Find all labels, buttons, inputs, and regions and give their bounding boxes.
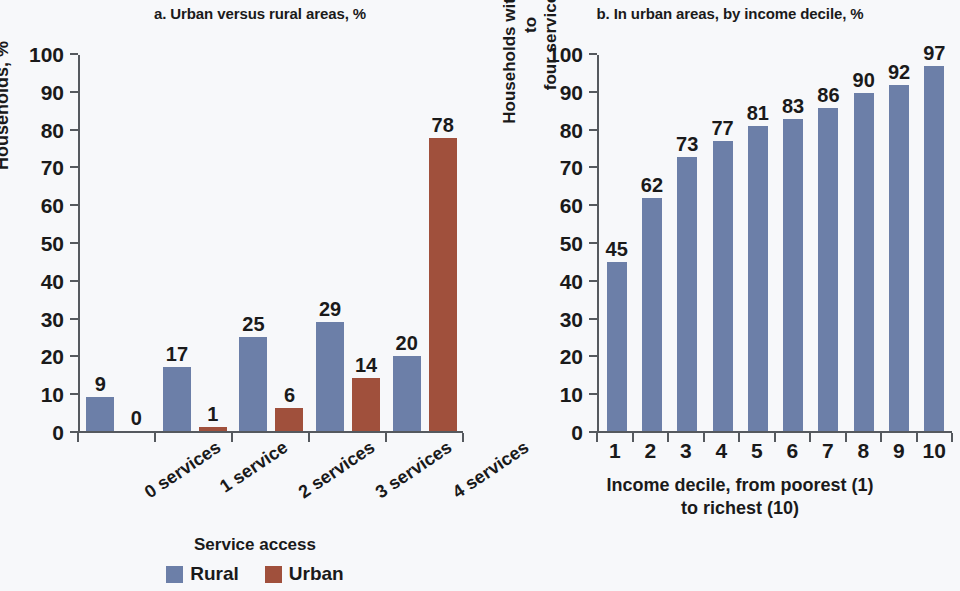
bar: 6 bbox=[275, 408, 303, 431]
panel-b-plot-area: 0102030405060708090100 45627377818386909… bbox=[597, 55, 952, 433]
legend-item: Rural bbox=[166, 563, 239, 585]
bar-group: 45 bbox=[599, 55, 634, 431]
bar-group: 81 bbox=[740, 55, 775, 431]
bar-wrap: 6 bbox=[275, 55, 303, 431]
bar-group: 90 bbox=[80, 55, 157, 431]
x-category-label: 4 bbox=[704, 440, 740, 470]
x-category-label: 0 services bbox=[141, 437, 225, 503]
y-tick: 20 bbox=[70, 355, 78, 357]
y-tick-label: 20 bbox=[560, 346, 583, 367]
bar-group: 83 bbox=[775, 55, 810, 431]
bar-group: 2078 bbox=[386, 55, 463, 431]
y-tick: 70 bbox=[589, 166, 597, 168]
bar-wrap: 77 bbox=[713, 55, 733, 431]
y-tick: 10 bbox=[589, 393, 597, 395]
y-tick: 40 bbox=[70, 280, 78, 282]
bar-group: 256 bbox=[233, 55, 310, 431]
panel-a: a. Urban versus rural areas, % Household… bbox=[0, 0, 480, 591]
bar: 25 bbox=[239, 337, 267, 431]
y-tick-label: 80 bbox=[41, 119, 64, 140]
bar: 81 bbox=[748, 126, 768, 431]
bar-wrap: 29 bbox=[316, 55, 344, 431]
panel-a-x-axis-title: Service access bbox=[0, 535, 480, 555]
bar: 83 bbox=[783, 119, 803, 431]
y-tick-label: 30 bbox=[41, 308, 64, 329]
bar: 29 bbox=[316, 322, 344, 431]
bar-value-label: 29 bbox=[319, 299, 341, 319]
bar-value-label: 1 bbox=[207, 404, 218, 424]
y-tick: 90 bbox=[70, 91, 78, 93]
bar-wrap: 45 bbox=[607, 55, 627, 431]
bar-wrap: 92 bbox=[889, 55, 909, 431]
bar-wrap: 0 bbox=[122, 55, 150, 431]
figure-container: a. Urban versus rural areas, % Household… bbox=[0, 0, 960, 591]
x-category-label: 7 bbox=[810, 440, 846, 470]
y-tick-label: 0 bbox=[52, 422, 64, 443]
bar: 77 bbox=[713, 141, 733, 431]
bar-wrap: 9 bbox=[86, 55, 114, 431]
legend-item: Urban bbox=[265, 563, 344, 585]
bar: 92 bbox=[889, 85, 909, 431]
bar-value-label: 45 bbox=[606, 239, 628, 259]
bar-wrap: 25 bbox=[239, 55, 267, 431]
bar-wrap: 14 bbox=[352, 55, 380, 431]
bar: 86 bbox=[818, 108, 838, 431]
bar-value-label: 17 bbox=[166, 344, 188, 364]
panel-a-y-axis-label: Households, % bbox=[0, 41, 13, 170]
y-tick-label: 20 bbox=[41, 346, 64, 367]
bar-value-label: 62 bbox=[641, 175, 663, 195]
y-tick: 80 bbox=[70, 129, 78, 131]
y-tick-label: 10 bbox=[41, 384, 64, 405]
bar: 90 bbox=[854, 93, 874, 431]
bar: 62 bbox=[642, 198, 662, 431]
y-tick-label: 80 bbox=[560, 119, 583, 140]
bar-value-label: 14 bbox=[355, 355, 377, 375]
panel-b-bar-groups: 45627377818386909297 bbox=[599, 55, 952, 431]
bar: 97 bbox=[924, 66, 944, 431]
y-tick: 50 bbox=[70, 242, 78, 244]
x-category-label: 3 bbox=[668, 440, 704, 470]
bar-group: 62 bbox=[634, 55, 669, 431]
panel-a-plot-area: 0102030405060708090100 9017125629142078 bbox=[78, 55, 463, 433]
y-tick-label: 60 bbox=[560, 195, 583, 216]
y-tick: 50 bbox=[589, 242, 597, 244]
bar: 78 bbox=[429, 138, 457, 431]
bar-group: 97 bbox=[917, 55, 952, 431]
panel-b-x-axis-title-line2: to richest (10) bbox=[520, 497, 960, 520]
y-tick-label: 70 bbox=[41, 157, 64, 178]
bar-wrap: 62 bbox=[642, 55, 662, 431]
bar-value-label: 81 bbox=[747, 103, 769, 123]
legend-label: Rural bbox=[190, 563, 239, 585]
bar-group: 73 bbox=[670, 55, 705, 431]
bar: 17 bbox=[163, 367, 191, 431]
y-tick: 30 bbox=[589, 318, 597, 320]
x-category-label: 10 bbox=[917, 440, 953, 470]
bar-value-label: 92 bbox=[888, 62, 910, 82]
y-tick: 60 bbox=[70, 204, 78, 206]
panel-a-title: a. Urban versus rural areas, % bbox=[0, 5, 480, 22]
panel-a-legend: RuralUrban bbox=[0, 563, 480, 585]
bar-wrap: 1 bbox=[199, 55, 227, 431]
bar-group: 77 bbox=[705, 55, 740, 431]
bar-value-label: 78 bbox=[432, 115, 454, 135]
y-tick: 30 bbox=[70, 318, 78, 320]
y-tick: 60 bbox=[589, 204, 597, 206]
bar-value-label: 9 bbox=[95, 374, 106, 394]
bar-group: 171 bbox=[157, 55, 234, 431]
y-tick-label: 50 bbox=[41, 233, 64, 254]
x-category-label: 2 services bbox=[295, 437, 379, 503]
bar-wrap: 78 bbox=[429, 55, 457, 431]
y-tick-label: 40 bbox=[41, 270, 64, 291]
bar-value-label: 6 bbox=[284, 385, 295, 405]
bar-wrap: 20 bbox=[393, 55, 421, 431]
panel-a-x-axis-line bbox=[78, 431, 463, 433]
legend-swatch bbox=[166, 566, 183, 583]
x-category-label: 9 bbox=[881, 440, 917, 470]
bar-value-label: 97 bbox=[923, 43, 945, 63]
bar-value-label: 90 bbox=[853, 70, 875, 90]
y-tick-label: 30 bbox=[560, 308, 583, 329]
bar-group: 2914 bbox=[310, 55, 387, 431]
bar-group: 90 bbox=[846, 55, 881, 431]
y-tick: 20 bbox=[589, 355, 597, 357]
y-tick: 100 bbox=[589, 53, 597, 55]
